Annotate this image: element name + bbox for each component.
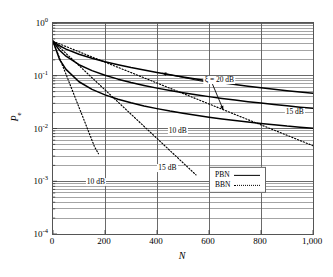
annotation-bbn-10db: 10 dB bbox=[86, 178, 106, 186]
annotation-xi-20db: ξ = 20 dB bbox=[204, 76, 235, 84]
x-tick-label: 200 bbox=[97, 236, 111, 246]
y-axis-title: Pe bbox=[9, 112, 23, 121]
legend-label-bbn: BBN bbox=[213, 180, 232, 190]
legend: PBN BBN bbox=[209, 167, 266, 193]
annotation-bbn-15db: 15 dB bbox=[157, 164, 177, 172]
annotation-pbn-15db: 15 dB bbox=[285, 108, 305, 116]
y-tick-label: 10-3 bbox=[34, 174, 48, 186]
y-tick-label: 100 bbox=[36, 16, 48, 28]
x-tick-label: 0 bbox=[50, 236, 55, 246]
x-axis-title: N bbox=[179, 250, 186, 261]
figure-chart-error-probability: 100 10-1 10-2 10-3 10-4 Pe 0 200 400 600… bbox=[0, 0, 333, 277]
y-tick-label: 10-4 bbox=[34, 227, 48, 239]
legend-item-bbn: BBN bbox=[213, 180, 262, 190]
y-axis-tick-labels: 100 10-1 10-2 10-3 10-4 bbox=[0, 22, 48, 233]
annotation-pbn-10db: 10 dB bbox=[168, 127, 188, 135]
y-tick-label: 10-1 bbox=[34, 69, 48, 81]
legend-label-pbn: PBN bbox=[213, 170, 232, 180]
x-tick-label: 800 bbox=[253, 236, 267, 246]
legend-swatch-dotted bbox=[234, 182, 260, 189]
series-pbn-15-db bbox=[53, 41, 313, 108]
series-pbn-10-db bbox=[53, 41, 313, 128]
plot-area: ξ = 20 dB 15 dB 10 dB 15 dB 10 dB PBN BB… bbox=[52, 22, 314, 235]
y-tick-label: 10-2 bbox=[34, 122, 48, 134]
series-bbn-15-db bbox=[53, 41, 196, 175]
x-tick-label: 400 bbox=[149, 236, 163, 246]
series-pbn-20-db bbox=[53, 41, 313, 93]
legend-swatch-solid bbox=[234, 172, 260, 179]
legend-item-pbn: PBN bbox=[213, 170, 262, 180]
x-tick-label: 600 bbox=[201, 236, 215, 246]
x-tick-label: 1,000 bbox=[302, 236, 322, 246]
